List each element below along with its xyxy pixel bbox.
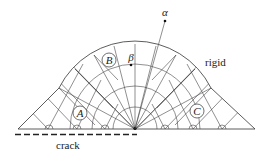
slip-line-field-diagram: A B C α β rigid crack — [0, 0, 269, 154]
beta-label: β — [127, 51, 134, 63]
beta-marker — [130, 64, 133, 67]
outer-boundary — [18, 41, 255, 129]
region-c-label: C — [193, 105, 201, 117]
alpha-label: α — [162, 6, 168, 18]
rigid-label: rigid — [205, 56, 226, 68]
region-b-label: B — [106, 54, 113, 66]
crack-label: crack — [56, 139, 80, 151]
alpha-direction — [135, 20, 166, 129]
region-a-label: A — [76, 107, 84, 119]
